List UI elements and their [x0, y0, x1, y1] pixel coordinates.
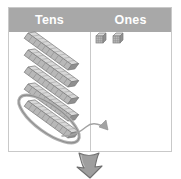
- table-header-row: Tens Ones: [9, 8, 171, 32]
- place-value-diagram: Tens Ones: [0, 0, 181, 179]
- table-body: [9, 32, 171, 151]
- place-value-table: Tens Ones: [8, 7, 172, 152]
- ones-column-cell: [90, 32, 171, 151]
- column-header-ones: Ones: [90, 8, 171, 32]
- tens-column-cell: [9, 32, 90, 151]
- down-arrow-icon: [77, 153, 102, 178]
- column-header-tens: Tens: [9, 8, 90, 32]
